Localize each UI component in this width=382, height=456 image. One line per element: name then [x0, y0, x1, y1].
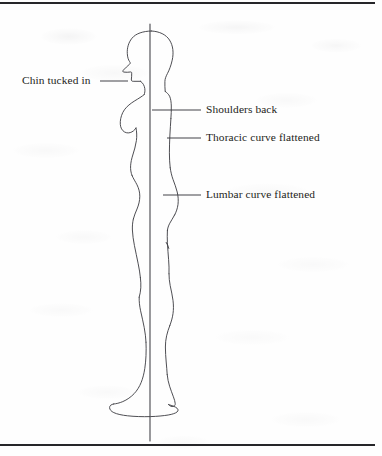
underbust-waist-contour [131, 128, 137, 175]
knee-front-contour [139, 278, 141, 298]
abdomen-front-contour [132, 175, 140, 218]
front-thigh-contour [132, 219, 140, 278]
head-outline [123, 31, 152, 81]
buttock-contour [167, 215, 174, 231]
chest-front-breast-contour [120, 95, 144, 133]
annotation-label-shoulders: Shoulders back [206, 104, 277, 115]
shin-front-contour [139, 297, 146, 342]
foot-sole-contour [110, 404, 178, 417]
posture-diagram-figure: Chin tucked in Shoulders back Thoracic c… [0, 0, 382, 456]
annotation-label-chin: Chin tucked in [22, 75, 90, 86]
lumbar-back-contour [170, 168, 178, 215]
back-thigh-hamstring-contour [167, 231, 169, 274]
annotation-label-thoracic: Thoracic curve flattened [206, 132, 320, 143]
shoulder-back-contour [165, 91, 171, 118]
achilles-ankle-contour [165, 326, 169, 375]
skull-back-curve [152, 31, 174, 91]
mid-back-thoracic-contour [169, 119, 171, 168]
neck-front-throat [141, 81, 145, 94]
calf-back-contour [169, 274, 173, 326]
figure-line-art [0, 0, 382, 456]
annotation-label-lumbar: Lumbar curve flattened [206, 189, 315, 200]
front-ankle-instep-contour [114, 342, 147, 404]
heel-back-contour [167, 375, 175, 407]
